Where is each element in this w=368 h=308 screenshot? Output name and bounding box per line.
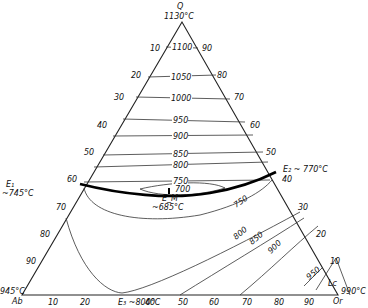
svg-text:950: 950 [305, 265, 322, 282]
svg-text:80: 80 [217, 71, 227, 80]
svg-text:20: 20 [80, 298, 90, 307]
isotherm-labels: 1100 1050 1000 950 900 850 800 750 700 7… [170, 42, 322, 282]
vertex-ab-temp: 945°C [0, 287, 25, 296]
svg-text:700: 700 [175, 185, 190, 194]
lc-field-label: Lc [328, 279, 337, 288]
svg-text:850: 850 [173, 150, 188, 159]
vertex-q-temp: 1130°C [164, 12, 194, 21]
svg-text:800: 800 [232, 225, 249, 242]
svg-text:70: 70 [56, 203, 66, 212]
svg-text:20: 20 [316, 230, 326, 239]
svg-text:900: 900 [173, 132, 188, 141]
em-label: E_M [162, 194, 178, 203]
svg-text:50: 50 [84, 148, 94, 157]
svg-text:750: 750 [232, 194, 250, 210]
svg-text:40: 40 [145, 298, 155, 307]
e1-label: E₁ [6, 180, 14, 189]
svg-text:30: 30 [114, 93, 124, 102]
svg-text:80: 80 [274, 298, 284, 307]
vertex-q-name: Q [177, 2, 183, 11]
svg-text:40: 40 [97, 121, 107, 130]
svg-text:950: 950 [173, 116, 188, 125]
svg-text:60: 60 [209, 298, 219, 307]
em-temp: ~685°C [152, 203, 184, 212]
svg-text:50: 50 [178, 298, 188, 307]
e2-label: E₂ ~ 770°C [283, 165, 328, 174]
svg-text:1050: 1050 [171, 73, 191, 82]
left-axis-ticks: 10 20 30 40 50 60 70 80 90 [26, 44, 160, 266]
svg-text:900: 900 [266, 238, 283, 255]
bottom-axis-ticks: 10 20 40 50 60 70 80 90 [48, 298, 314, 307]
svg-text:20: 20 [131, 71, 141, 80]
right-axis-ticks: 90 80 70 60 50 40 30 20 10 [202, 44, 340, 266]
svg-text:70: 70 [242, 298, 252, 307]
svg-text:40: 40 [282, 175, 292, 184]
e1-temp: ~745°C [2, 189, 34, 198]
svg-text:60: 60 [250, 121, 260, 130]
svg-text:800: 800 [173, 161, 188, 170]
svg-text:1100: 1100 [172, 43, 192, 52]
svg-text:10: 10 [330, 257, 340, 266]
svg-text:90: 90 [304, 298, 314, 307]
svg-text:30: 30 [298, 203, 308, 212]
svg-text:90: 90 [202, 44, 212, 53]
svg-text:60: 60 [67, 175, 77, 184]
vertex-or-name: Or [333, 297, 343, 306]
svg-text:80: 80 [40, 230, 50, 239]
svg-text:90: 90 [26, 257, 36, 266]
svg-text:10: 10 [150, 44, 160, 53]
vertex-ab-name: Ab [11, 297, 23, 306]
svg-text:70: 70 [234, 93, 244, 102]
vertex-or-temp: 990°C [341, 287, 366, 296]
ternary-diagram: Q 1130°C 945°C Ab 990°C Or E₁ ~745°C E₂ … [0, 0, 368, 308]
svg-text:50: 50 [266, 148, 276, 157]
svg-text:1000: 1000 [171, 94, 191, 103]
svg-text:10: 10 [48, 298, 58, 307]
